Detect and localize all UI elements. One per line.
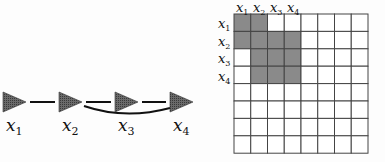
node-triangle-icon <box>59 92 82 112</box>
matrix-cell-empty <box>268 84 285 101</box>
matrix-cell-empty <box>301 66 318 83</box>
matrix-cell-empty <box>251 101 268 118</box>
matrix-cell-empty <box>301 136 318 153</box>
matrix-cell-empty <box>335 14 352 31</box>
matrix-row-labels: x1 x2 x3 x4 <box>218 16 230 86</box>
matrix-cell-empty <box>335 84 352 101</box>
figure: x1 x2 x3 x4 x1 x2 x3 x4 x1 x2 x3 x4 <box>0 0 385 162</box>
matrix-cell-empty <box>351 66 368 83</box>
matrix-cell-empty <box>318 84 335 101</box>
matrix-cell-empty <box>351 101 368 118</box>
matrix-cell-empty <box>318 31 335 48</box>
matrix-cell-filled <box>234 31 251 48</box>
node-label-x3: x3 <box>118 115 135 138</box>
matrix-cell-empty <box>335 66 352 83</box>
matrix-cell-empty <box>301 84 318 101</box>
matrix-cell-empty <box>351 49 368 66</box>
matrix-cell-empty <box>268 118 285 135</box>
matrix-cell-filled <box>251 66 268 83</box>
matrix-cell-empty <box>251 136 268 153</box>
matrix-cell-empty <box>234 118 251 135</box>
matrix-cell-empty <box>251 84 268 101</box>
matrix-cell-empty <box>234 136 251 153</box>
matrix-cell-empty <box>351 84 368 101</box>
matrix-cell-empty <box>318 66 335 83</box>
node-triangle-icon <box>3 92 26 112</box>
matrix-cell-empty <box>234 84 251 101</box>
matrix-cell-empty <box>335 31 352 48</box>
edge-2-4-curved <box>84 106 170 114</box>
col-label-x4: x4 <box>287 0 299 17</box>
matrix-cell-filled <box>284 66 301 83</box>
matrix-cell-empty <box>351 118 368 135</box>
row-label-x1: x1 <box>218 16 230 33</box>
col-label-x3: x3 <box>270 0 282 17</box>
matrix-cell-empty <box>318 101 335 118</box>
matrix-cell-empty <box>318 118 335 135</box>
matrix-cell-empty <box>335 136 352 153</box>
matrix-cell-empty <box>301 101 318 118</box>
matrix-cell-empty <box>301 31 318 48</box>
matrix-cell-empty <box>284 101 301 118</box>
node-triangle-icon <box>115 92 138 112</box>
matrix-cell-empty <box>284 84 301 101</box>
matrix-cell-empty <box>284 136 301 153</box>
node-triangle-icon <box>170 92 193 112</box>
matrix-cell-empty <box>351 31 368 48</box>
matrix-cell-empty <box>335 101 352 118</box>
matrix-cell-empty <box>251 118 268 135</box>
row-label-x2: x2 <box>218 34 230 51</box>
row-label-x4: x4 <box>218 69 230 86</box>
matrix-cell-empty <box>284 118 301 135</box>
matrix-cell-filled <box>268 31 285 48</box>
node-label-x2: x2 <box>62 115 79 138</box>
matrix-cell-empty <box>351 136 368 153</box>
matrix-cell-empty <box>301 14 318 31</box>
matrix-cell-empty <box>351 14 368 31</box>
node-label-x4: x4 <box>173 115 190 138</box>
matrix-cell-empty <box>335 49 352 66</box>
matrix-cell-empty <box>234 101 251 118</box>
matrix-cell-empty <box>234 49 251 66</box>
matrix-cell-empty <box>318 14 335 31</box>
col-label-x1: x1 <box>236 0 248 17</box>
chain-graph: x1 x2 x3 x4 <box>3 92 193 138</box>
matrix-cell-empty <box>318 49 335 66</box>
row-label-x3: x3 <box>218 51 230 68</box>
matrix-cell-filled <box>268 49 285 66</box>
matrix-cell-filled <box>251 49 268 66</box>
matrix-cell-filled <box>284 31 301 48</box>
matrix-cell-filled <box>251 31 268 48</box>
matrix-cell-filled <box>284 49 301 66</box>
col-label-x2: x2 <box>253 0 265 17</box>
matrix-cell-empty <box>301 118 318 135</box>
node-label-x1: x1 <box>6 115 23 138</box>
matrix-cell-empty <box>318 136 335 153</box>
matrix-cell-empty <box>268 101 285 118</box>
matrix-cell-filled <box>268 66 285 83</box>
adjacency-matrix <box>234 14 368 153</box>
matrix-cell-empty <box>335 118 352 135</box>
matrix-cell-empty <box>268 136 285 153</box>
matrix-cell-empty <box>301 49 318 66</box>
matrix-cell-empty <box>234 66 251 83</box>
